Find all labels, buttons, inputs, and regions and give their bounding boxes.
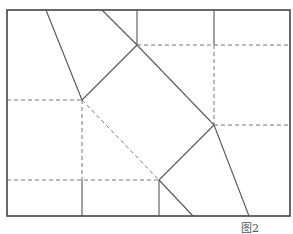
outer-rectangle	[7, 10, 290, 216]
solid-line	[102, 10, 137, 45]
solid-fold-lines	[46, 10, 249, 216]
solid-line	[159, 180, 193, 216]
solid-line	[46, 10, 82, 100]
figure-caption: 图2	[241, 219, 259, 234]
dashed-fold-lines	[7, 45, 290, 180]
folded-paper-diagram	[0, 0, 293, 234]
solid-line	[214, 125, 249, 216]
solid-line	[82, 45, 137, 100]
dashed-line	[82, 100, 159, 180]
solid-line	[159, 125, 214, 180]
